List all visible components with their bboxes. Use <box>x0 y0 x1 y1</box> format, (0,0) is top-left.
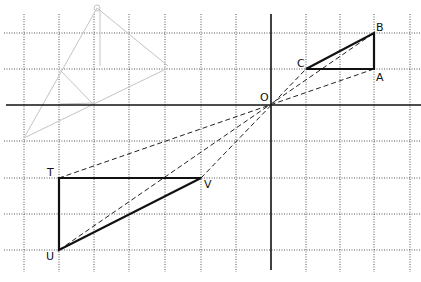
point-label-A: A <box>376 71 384 84</box>
point-label-V: V <box>204 178 212 191</box>
triangle-ABC <box>306 33 374 69</box>
point-label-T: T <box>46 166 54 179</box>
enlargement-diagram: ABCTUVO <box>0 0 421 282</box>
origin-label: O <box>260 91 269 104</box>
point-label-C: C <box>297 57 305 70</box>
point-label-B: B <box>376 21 384 34</box>
dashed-ray-TA <box>59 69 374 178</box>
point-labels: ABCTUVO <box>46 21 384 263</box>
grid <box>4 14 421 272</box>
coordinate-axes <box>6 14 421 270</box>
point-label-U: U <box>46 250 54 263</box>
dashed-ray-VC <box>201 69 306 178</box>
faint-sketch <box>24 5 168 138</box>
